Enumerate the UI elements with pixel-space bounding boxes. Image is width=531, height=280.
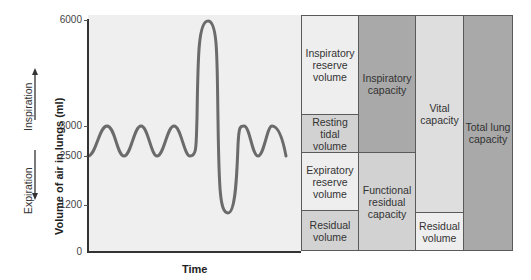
tick-2500	[84, 156, 88, 157]
frc-label: Functional residual capacity	[359, 184, 415, 220]
ytick-0: 0	[48, 247, 82, 257]
up-arrow-icon	[31, 68, 39, 120]
tlc-label: Total lung capacity	[464, 121, 512, 145]
tick-1200	[84, 205, 88, 206]
tidal-volume-label: Resting tidal volume	[302, 116, 358, 152]
inspiratory-capacity-cell: Inspiratory capacity	[358, 15, 416, 153]
frc-cell: Functional residual capacity	[358, 152, 416, 251]
tidal-volume-cell: Resting tidal volume	[301, 114, 359, 153]
tick-6000	[84, 20, 88, 21]
residual-volume-cell: Residual volume	[301, 210, 359, 251]
ytick-6000: 6000	[48, 15, 82, 25]
x-axis-label: Time	[182, 263, 207, 275]
residual-volume-label-2: Residual volume	[416, 220, 463, 244]
tick-3000	[84, 126, 88, 127]
erv-cell: Expiratory reserve volume	[301, 152, 359, 211]
y-axis-label: Volume of air in lungs (ml)	[53, 98, 65, 235]
irv-label: Inspiratory reserve volume	[302, 47, 358, 83]
inspiratory-capacity-label: Inspiratory capacity	[359, 72, 415, 96]
y-axis	[87, 19, 89, 252]
irv-cell: Inspiratory reserve volume	[301, 15, 359, 115]
total-lung-capacity-cell: Total lung capacity	[463, 15, 513, 251]
vital-capacity-cell: Vital capacity	[415, 15, 464, 213]
residual-volume-label: Residual volume	[302, 219, 358, 243]
x-axis	[87, 251, 301, 253]
erv-label: Expiratory reserve volume	[302, 164, 358, 200]
residual-volume-cell-2: Residual volume	[415, 212, 464, 251]
vital-capacity-label: Vital capacity	[416, 102, 463, 126]
down-arrow-icon	[31, 150, 39, 200]
